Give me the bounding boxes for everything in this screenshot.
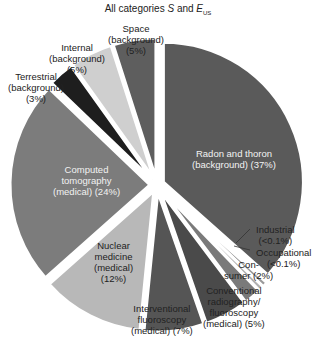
label-internal: Internal(background)(5%) (49, 42, 105, 75)
label-radon: Radon and thoron(background) (37%) (192, 148, 276, 170)
label-interventional: Interventionalfluoroscopy(medical) (7%) (131, 303, 193, 336)
label-space: Space(background)(5%) (108, 23, 164, 56)
label-ct: Computedtomography(medical) (24%) (53, 164, 120, 197)
label-consumer: Con-sumer (2%) (224, 259, 273, 281)
label-terrestrial: Terrestrial(background)(3%) (8, 71, 64, 104)
label-nuclear: Nuclearmedicine(medical)(12%) (94, 240, 133, 284)
label-industrial: Industrial(<0.1%) (256, 224, 295, 246)
label-conventional: Conventionalradiography/fluoroscopy(medi… (203, 285, 265, 329)
chart-title: All categories S and EUS (0, 3, 316, 16)
